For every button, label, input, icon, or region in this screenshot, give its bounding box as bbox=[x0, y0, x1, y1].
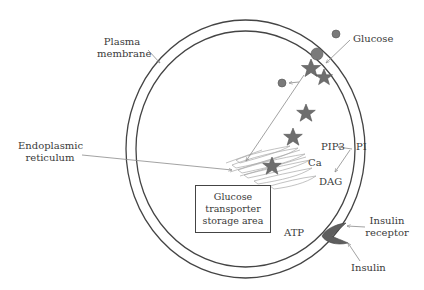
storage-line1: Glucose bbox=[214, 191, 252, 203]
label-atp: ATP bbox=[284, 227, 304, 239]
star-icon bbox=[302, 59, 321, 77]
star-icon bbox=[297, 104, 316, 121]
glucose-transporter-storage-box: Glucose transporter storage area bbox=[195, 185, 271, 233]
insulin-receptor-shape bbox=[322, 223, 348, 244]
label-plasma-membrane: Plasma membrane bbox=[97, 36, 147, 60]
er-pointer bbox=[82, 155, 232, 170]
glucose-molecule-inside bbox=[278, 79, 286, 87]
star-icon bbox=[284, 128, 303, 145]
label-insulin: Insulin bbox=[351, 262, 386, 274]
label-plasma-line1: Plasma bbox=[97, 36, 147, 48]
label-plasma-line2: membrane bbox=[97, 48, 147, 60]
storage-line2: transporter bbox=[205, 203, 260, 215]
glucose-release-arrow bbox=[289, 82, 299, 83]
label-insulin-receptor: Insulin receptor bbox=[365, 215, 409, 239]
pi-to-dag-arrow bbox=[335, 150, 350, 172]
glucose-pointer bbox=[326, 40, 350, 63]
label-glucose: Glucose bbox=[353, 33, 393, 45]
label-receptor-line1: Insulin bbox=[365, 215, 409, 227]
label-endoplasmic-reticulum: Endoplasmic reticulum bbox=[18, 140, 82, 164]
label-ca: Ca bbox=[308, 157, 322, 169]
star-icon bbox=[263, 157, 282, 174]
label-dag: DAG bbox=[319, 176, 342, 188]
storage-line3: storage area bbox=[203, 215, 264, 227]
label-er-line1: Endoplasmic bbox=[18, 140, 82, 152]
label-pi: PI bbox=[356, 141, 367, 153]
insulin-pointer bbox=[348, 243, 360, 261]
glucose-molecule-outside bbox=[332, 30, 340, 38]
label-er-line2: reticulum bbox=[18, 152, 82, 164]
star-icon bbox=[316, 69, 333, 85]
label-pip3: PIP3 bbox=[321, 141, 345, 153]
glucose-transporters bbox=[263, 59, 333, 174]
glucose-molecule-transporter bbox=[311, 48, 323, 60]
insulin-receptor-pointer bbox=[347, 226, 365, 227]
transport-arrow bbox=[246, 75, 304, 161]
label-receptor-line2: receptor bbox=[365, 227, 409, 239]
